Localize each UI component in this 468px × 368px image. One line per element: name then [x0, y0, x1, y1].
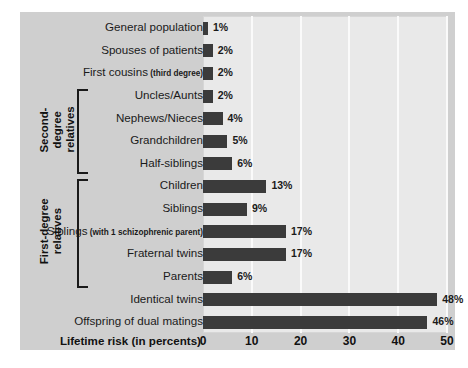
x-tick-50: 50 [440, 333, 453, 349]
bar [203, 271, 232, 284]
x-tick-10: 10 [245, 333, 258, 349]
category-label-text: Parents [163, 269, 203, 282]
category-label-qualifier: (third degree) [148, 69, 203, 78]
chart-figure: 01020304050 Lifetime risk (in percents) … [20, 12, 455, 350]
category-label: Offspring of dual matings [0, 314, 203, 328]
bracket-first-degree-relatives [77, 179, 88, 287]
bar-value-label: 2% [218, 88, 233, 103]
group-label-second-degree-relatives: Second-degree relatives [38, 89, 77, 171]
bar [203, 22, 208, 35]
bar-value-label: 5% [232, 133, 247, 148]
category-label-qualifier: (with 1 schizophrenic parent) [87, 228, 203, 237]
bar [203, 90, 213, 103]
category-label-text: Siblings [162, 201, 203, 214]
category-label: Siblings [0, 201, 203, 215]
category-label: Half-siblings [0, 156, 203, 170]
bar [203, 180, 266, 193]
bar [203, 203, 247, 216]
x-tick-20: 20 [294, 333, 307, 349]
x-axis: 01020304050 [203, 333, 447, 351]
bar-value-label: 2% [218, 65, 233, 80]
group-label-first-degree-relatives: First-degree relatives [38, 179, 64, 283]
category-label-text: Nephews/Nieces [116, 111, 203, 124]
bar [203, 112, 223, 125]
category-label: Grandchildren [0, 133, 203, 147]
category-label: Uncles/Aunts [0, 88, 203, 102]
bar [203, 44, 213, 57]
category-label-text: General population [105, 20, 203, 33]
category-label-text: Grandchildren [130, 133, 203, 146]
category-label-text: Half-siblings [140, 156, 203, 169]
category-label-text: Uncles/Aunts [135, 88, 203, 101]
category-label: General population [0, 20, 203, 34]
bar-value-label: 2% [218, 43, 233, 58]
bar-value-label: 4% [228, 111, 243, 126]
bar-value-label: 1% [213, 20, 228, 35]
bar [203, 67, 213, 80]
bar [203, 135, 227, 148]
bar [203, 293, 437, 306]
bar-value-label: 6% [237, 269, 252, 284]
category-label: Nephews/Nieces [0, 111, 203, 125]
bar-value-label: 17% [291, 224, 312, 239]
category-label: Parents [0, 269, 203, 283]
category-label-text: Spouses of patients [101, 43, 203, 56]
bar [203, 248, 286, 261]
bar-value-label: 48% [442, 292, 463, 307]
bar [203, 157, 232, 170]
category-label-text: First cousins [83, 65, 148, 78]
category-label-text: Identical twins [130, 292, 203, 305]
category-label: Siblings (with 1 schizophrenic parent) [0, 224, 203, 240]
category-label-text: Fraternal twins [127, 246, 203, 259]
bar-value-label: 17% [291, 246, 312, 261]
x-tick-30: 30 [343, 333, 356, 349]
category-label-text: Offspring of dual matings [74, 314, 203, 327]
bar-value-label: 6% [237, 156, 252, 171]
category-label: Identical twins [0, 292, 203, 306]
bar [203, 316, 427, 329]
category-label: Children [0, 178, 203, 192]
bar-value-label: 13% [271, 178, 292, 193]
category-label: First cousins (third degree) [0, 65, 203, 81]
bar [203, 225, 286, 238]
category-label: Fraternal twins [0, 246, 203, 260]
x-axis-title: Lifetime risk (in percents) [60, 333, 201, 349]
category-label: Spouses of patients [0, 43, 203, 57]
bracket-second-degree-relatives [77, 89, 88, 175]
bar-value-label: 9% [252, 201, 267, 216]
bar-value-label: 46% [432, 314, 453, 329]
x-tick-40: 40 [392, 333, 405, 349]
category-label-text: Children [160, 178, 203, 191]
